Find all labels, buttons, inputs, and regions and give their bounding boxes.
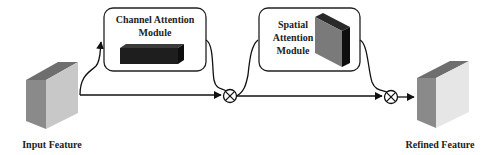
multiply-operator-2 — [385, 91, 398, 104]
channel-module-title-line2: Module — [139, 27, 172, 38]
channel-output-connector — [206, 40, 226, 91]
channel-module-title-line1: Channel Attention — [116, 14, 195, 25]
cbam-diagram: Input Feature Channel Attention Module S… — [0, 0, 491, 155]
channel-attention-block-icon — [120, 44, 184, 64]
refined-feature-label: Refined Feature — [406, 139, 476, 150]
multiply-operator-1 — [224, 90, 237, 103]
refined-feature-cube — [417, 61, 469, 128]
spatial-module-title-line3: Module — [277, 45, 310, 56]
spatial-module-title-line1: Spatial — [278, 19, 308, 30]
spatial-output-connector — [360, 40, 387, 92]
input-feature-cube — [26, 62, 78, 129]
input-feature-label: Input Feature — [22, 139, 82, 150]
channel-branch-arrow — [80, 42, 101, 95]
channel-attention-module: Channel Attention Module — [104, 8, 206, 71]
spatial-module-title-line2: Attention — [273, 32, 314, 43]
spatial-branch-connector — [237, 40, 259, 96]
spatial-attention-module: Spatial Attention Module — [259, 8, 360, 71]
